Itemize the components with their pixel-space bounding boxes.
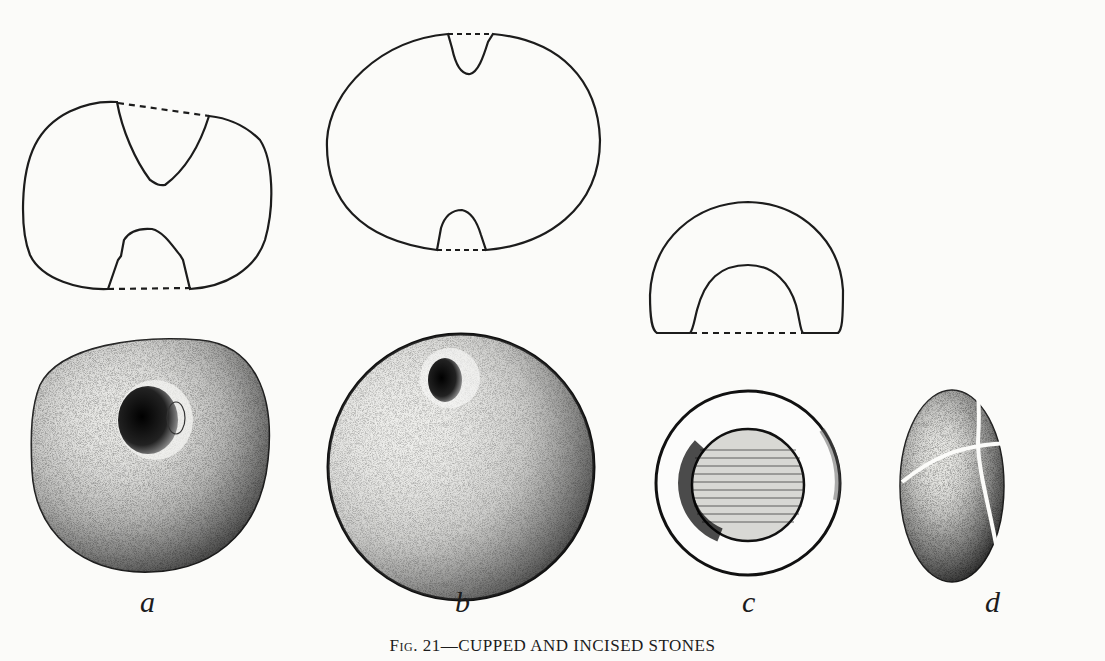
stone-c-section (650, 202, 843, 333)
stone-c-view (656, 391, 840, 575)
label-c: c (742, 585, 755, 619)
stone-a-view (20, 330, 280, 580)
figure-caption: Fig. 21—CUPPED AND INCISED STONES (0, 636, 1105, 656)
stone-b-section (327, 34, 600, 250)
label-b: b (455, 585, 470, 619)
stone-b-view (320, 330, 610, 610)
figure-drawings (0, 0, 1105, 661)
figure-title: —CUPPED AND INCISED STONES (441, 636, 716, 655)
figure-number: Fig. 21 (390, 636, 441, 655)
stone-d-view (895, 385, 1010, 585)
stone-a-section (23, 102, 271, 289)
label-d: d (985, 585, 1000, 619)
label-a: a (140, 585, 155, 619)
